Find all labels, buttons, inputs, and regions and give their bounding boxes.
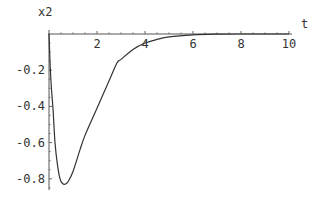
- line-chart: 246810-0.2-0.4-0.6-0.8 x2 t: [0, 0, 323, 202]
- data-series: [49, 34, 289, 184]
- x-tick-label: 8: [237, 37, 244, 51]
- y-tick-label: -0.4: [16, 99, 45, 113]
- y-axis-label: x2: [38, 5, 52, 19]
- x2-curve: [49, 34, 289, 184]
- y-tick-label: -0.6: [16, 136, 45, 150]
- y-tick-label: -0.8: [16, 172, 45, 186]
- x-tick-label: 6: [189, 37, 196, 51]
- x-tick-label: 2: [93, 37, 100, 51]
- y-tick-label: -0.2: [16, 63, 45, 77]
- x-axis-label: t: [301, 17, 308, 31]
- x-tick-label: 10: [282, 37, 296, 51]
